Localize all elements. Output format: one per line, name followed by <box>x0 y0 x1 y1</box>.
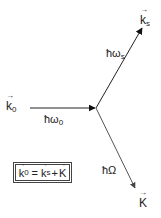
eq-k0-base: k <box>19 167 25 179</box>
omega0-label: ħω0 <box>44 114 63 127</box>
eq-ks: k <box>41 167 47 179</box>
k0-base: k <box>6 99 12 113</box>
eq-k0: k <box>19 167 25 179</box>
eq-K: K <box>59 167 66 179</box>
omegas-label: ħωs <box>106 48 125 61</box>
K-label: K <box>139 197 147 209</box>
ks-sub: s <box>146 19 150 28</box>
omegas-sub: s <box>121 52 125 61</box>
K-vector: K <box>139 197 147 209</box>
k0-label: k0 <box>6 100 16 114</box>
k0-sub: 0 <box>12 105 16 114</box>
eq-k0-sub: 0 <box>24 168 28 177</box>
K-arrow <box>96 108 135 188</box>
eq-equals: = <box>32 167 38 179</box>
Omega-base: ħΩ <box>102 164 116 176</box>
ks-arrow <box>96 28 142 108</box>
eq-K-base: K <box>59 167 66 179</box>
omega0-base: ħω <box>44 113 59 125</box>
eq-plus: + <box>52 167 58 179</box>
omega0-sub: 0 <box>59 118 63 127</box>
eq-ks-sub: s <box>47 168 51 177</box>
eq-ks-base: k <box>41 167 47 179</box>
K-base: K <box>139 196 147 210</box>
conservation-equation-box: k0 = ks + K <box>13 162 72 183</box>
ks-vector: k <box>140 14 146 26</box>
ks-label: ks <box>140 14 150 28</box>
k0-vector: k <box>6 100 12 112</box>
Omega-label: ħΩ <box>102 165 116 176</box>
vector-diagram <box>0 0 161 218</box>
ks-base: k <box>140 13 146 27</box>
omegas-base: ħω <box>106 47 121 59</box>
